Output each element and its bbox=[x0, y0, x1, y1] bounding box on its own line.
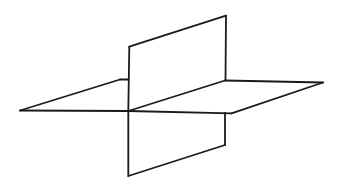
edge-v-left-edge-upper bbox=[128, 47, 129, 111]
edge-v-top-edge bbox=[129, 16, 226, 47]
segments-group bbox=[20, 16, 323, 176]
intersecting-planes-diagram bbox=[0, 0, 339, 187]
edge-intersection-line bbox=[128, 81, 225, 112]
edge-h-back-right bbox=[225, 81, 323, 83]
edge-v-bottom-edge bbox=[128, 145, 225, 176]
edge-v-upper-right-edge bbox=[226, 16, 227, 81]
edge-h-left-edge bbox=[20, 80, 120, 111]
edge-h-right-edge bbox=[232, 83, 324, 114]
edge-h-front-left bbox=[20, 111, 128, 112]
diagram-svg bbox=[0, 0, 339, 187]
edge-h-front-right bbox=[128, 111, 231, 113]
